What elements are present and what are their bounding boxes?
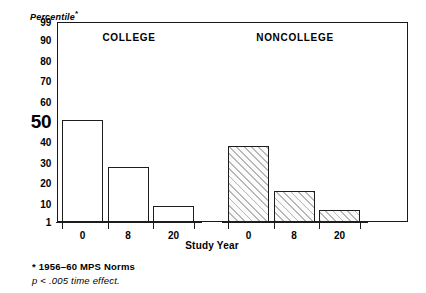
x-tick-mark <box>360 222 361 229</box>
y-tick-label-80: 80 <box>40 55 51 66</box>
x-tick-label-0: 0 <box>246 230 252 241</box>
x-tick-mark <box>274 222 275 229</box>
y-tick-label-70: 70 <box>40 76 51 87</box>
y-tick-label-40: 40 <box>40 137 51 148</box>
bar <box>62 120 103 222</box>
x-tick-mark <box>108 222 109 229</box>
y-axis-title-text: Percentile <box>30 12 75 22</box>
y-axis-title-footnote-marker: * <box>75 9 78 18</box>
x-tick-label-0: 0 <box>80 230 86 241</box>
x-tick-label-8: 8 <box>125 230 131 241</box>
bar <box>108 167 149 222</box>
y-axis-title: Percentile* <box>30 9 78 22</box>
footnote-pvalue: p < .005 time effect. <box>32 275 120 286</box>
x-tick-mark <box>153 222 154 229</box>
y-tick-label-90: 90 <box>40 35 51 46</box>
y-tick-label-10: 10 <box>40 198 51 209</box>
footnote-norms: * 1956–60 MPS Norms <box>32 261 135 272</box>
x-tick-mark <box>319 222 320 229</box>
bar <box>274 191 315 222</box>
x-axis-title: Study Year <box>185 240 239 251</box>
y-tick-label-60: 60 <box>40 96 51 107</box>
bar <box>228 146 269 222</box>
x-axis-baseline-noncollege <box>222 222 368 223</box>
x-tick-mark <box>62 222 63 229</box>
x-tick-label-20: 20 <box>168 230 179 241</box>
bar <box>153 206 194 222</box>
x-axis-baseline-college <box>56 222 202 223</box>
panel-header-college: COLLEGE <box>102 32 155 43</box>
x-tick-label-8: 8 <box>291 230 297 241</box>
y-tick-label-50: 50 <box>31 111 51 133</box>
y-tick-label-30: 30 <box>40 157 51 168</box>
y-tick-label-99: 99 <box>40 17 51 28</box>
x-tick-mark <box>194 222 195 229</box>
panel-header-noncollege: NONCOLLEGE <box>256 32 334 43</box>
y-tick-label-1: 1 <box>46 217 51 228</box>
x-tick-mark <box>228 222 229 229</box>
x-tick-label-20: 20 <box>334 230 345 241</box>
chart-figure: Percentile* 999080706050403020101 COLLEG… <box>0 0 426 293</box>
bar <box>319 210 360 222</box>
y-tick-label-20: 20 <box>40 178 51 189</box>
